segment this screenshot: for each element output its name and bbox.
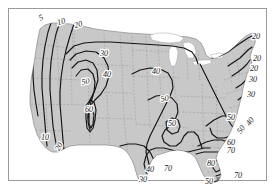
us-contour-map: 5510102020303040405050606040405050505010… bbox=[0, 0, 278, 195]
contour-label: 40 bbox=[152, 67, 160, 76]
contour-label: 50 bbox=[235, 124, 247, 136]
contour-label: 50 bbox=[205, 177, 213, 186]
contour-label: 50 bbox=[168, 119, 176, 128]
contour-label: 70 bbox=[227, 146, 235, 155]
contour-label: 50 bbox=[81, 76, 91, 86]
contour-label: 40 bbox=[103, 70, 111, 79]
contour-map-figure: 5510102020303040405050606040405050505010… bbox=[0, 0, 278, 195]
contour-label: 5 bbox=[37, 13, 44, 23]
contour-label: 70 bbox=[234, 171, 242, 180]
contour-label: 40 bbox=[244, 116, 256, 128]
contour-label: 70 bbox=[164, 164, 172, 173]
contour-label: 20 bbox=[250, 64, 258, 73]
contour-label: 60 bbox=[85, 105, 93, 114]
contour-label: 80 bbox=[207, 159, 215, 168]
contour-label: 10 bbox=[41, 133, 49, 142]
contour-label: 30 bbox=[99, 49, 108, 58]
contour-label: 30 bbox=[138, 175, 147, 184]
contour-label: 20 bbox=[253, 54, 261, 63]
contour-label: 30 bbox=[248, 75, 257, 84]
contour-label: 50 bbox=[160, 93, 169, 103]
contour-label: 20 bbox=[252, 32, 260, 41]
contour-label: 50 bbox=[227, 113, 235, 122]
contour-label: 40 bbox=[146, 165, 154, 174]
contour-50-florida bbox=[210, 181, 232, 182]
contour-label: 30 bbox=[246, 90, 255, 99]
